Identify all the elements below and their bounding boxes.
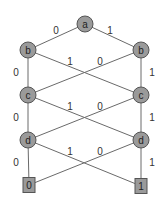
node-a: a <box>77 16 93 32</box>
node-label: c <box>26 90 31 101</box>
edge-label: 0 <box>13 157 19 168</box>
edge-label: 1 <box>107 25 113 36</box>
edge-label: 1 <box>149 112 155 123</box>
edges-layer <box>28 24 141 186</box>
node-cL: c <box>20 87 36 103</box>
edge-a-bR <box>85 24 141 50</box>
edge-label: 0 <box>53 25 59 36</box>
node-label: a <box>82 19 88 30</box>
terminal-1: 1 <box>135 179 147 194</box>
terminal-0: 0 <box>23 178 35 193</box>
edge-label: 1 <box>67 56 73 67</box>
terminal-label: 0 <box>26 180 32 191</box>
edge-label: 1 <box>67 101 73 112</box>
node-label: d <box>25 135 31 146</box>
node-dR: d <box>133 132 149 148</box>
node-cR: c <box>133 87 149 103</box>
edge-label: 0 <box>13 112 19 123</box>
edge-label: 0 <box>13 67 19 78</box>
node-bR: b <box>133 42 149 58</box>
node-label: b <box>138 45 144 56</box>
node-dL: d <box>20 132 36 148</box>
edge-label: 1 <box>149 157 155 168</box>
edge-label: 0 <box>97 56 103 67</box>
node-bL: b <box>20 42 36 58</box>
node-label: d <box>138 135 144 146</box>
nodes-layer: abbccdd <box>20 16 149 148</box>
edge-label: 0 <box>97 146 103 157</box>
edge-label: 1 <box>67 146 73 157</box>
edge-label: 0 <box>97 101 103 112</box>
bdd-diagram: 01010101010101 abbccdd 01 <box>0 0 163 209</box>
node-label: b <box>25 45 31 56</box>
node-label: c <box>139 90 144 101</box>
edge-label: 1 <box>149 67 155 78</box>
terminal-label: 1 <box>138 181 144 192</box>
